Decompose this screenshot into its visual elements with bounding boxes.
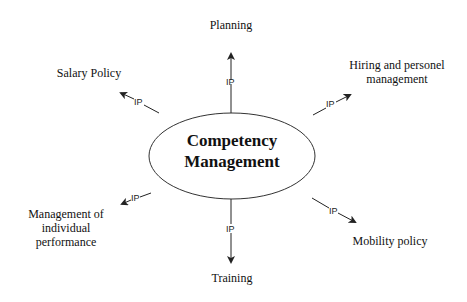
center-label-line1: Competency — [150, 130, 314, 151]
link-planning: IP — [226, 54, 235, 113]
link-individual: IP — [122, 193, 151, 204]
ip-label-planning: IP — [226, 77, 235, 87]
ip-label-individual: IP — [131, 193, 140, 203]
node-planning: Planning — [202, 18, 260, 32]
node-individual-line2: individual — [20, 221, 112, 235]
node-hiring-line2: management — [338, 72, 456, 86]
node-individual-line1: Management of — [20, 207, 112, 221]
link-hiring: IP — [313, 95, 350, 115]
link-salary: IP — [121, 93, 159, 113]
node-hiring: Hiring and personel management — [338, 58, 456, 86]
ip-label-hiring: IP — [326, 99, 335, 109]
ip-label-training: IP — [226, 224, 235, 234]
node-training: Training — [204, 271, 260, 285]
node-individual-line3: performance — [20, 235, 112, 249]
center-node-label: Competency Management — [150, 130, 314, 172]
node-hiring-line1: Hiring and personel — [338, 58, 456, 72]
ip-label-salary: IP — [134, 97, 143, 107]
ip-label-mobility: IP — [329, 206, 338, 216]
center-label-line2: Management — [150, 151, 314, 172]
node-salary: Salary Policy — [50, 66, 128, 80]
competency-diagram: IP IP IP IP IP IP — [0, 0, 467, 302]
node-individual-performance: Management of individual performance — [20, 207, 112, 249]
link-mobility: IP — [312, 198, 355, 222]
link-training: IP — [226, 199, 235, 262]
node-mobility: Mobility policy — [348, 234, 432, 248]
